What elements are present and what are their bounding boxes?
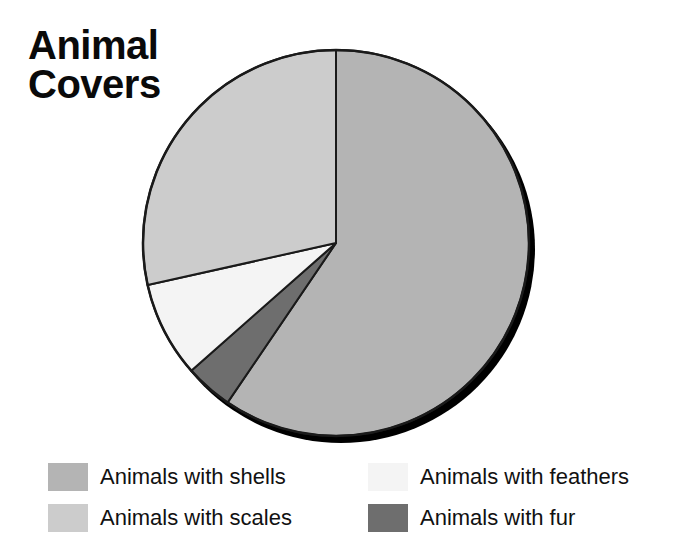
legend-swatch-fur — [368, 504, 408, 532]
legend-label-fur: Animals with fur — [420, 507, 575, 529]
legend-swatch-feathers — [368, 463, 408, 491]
legend-label-scales: Animals with scales — [100, 507, 292, 529]
legend-swatch-scales — [48, 504, 88, 532]
legend: Animals with shells Animals with feather… — [48, 456, 648, 542]
legend-item-feathers[interactable]: Animals with feathers — [368, 456, 668, 497]
legend-swatch-shells — [48, 463, 88, 491]
chart-page: Animal Covers Animals with shells Animal… — [0, 0, 676, 558]
legend-item-shells[interactable]: Animals with shells — [48, 456, 368, 497]
page-title: Animal Covers — [28, 26, 161, 104]
legend-item-scales[interactable]: Animals with scales — [48, 497, 368, 538]
legend-label-feathers: Animals with feathers — [420, 466, 629, 488]
legend-item-fur[interactable]: Animals with fur — [368, 497, 668, 538]
pie-slice-animals-with-scales[interactable] — [143, 50, 336, 285]
legend-label-shells: Animals with shells — [100, 466, 286, 488]
pie-slices — [143, 50, 529, 436]
